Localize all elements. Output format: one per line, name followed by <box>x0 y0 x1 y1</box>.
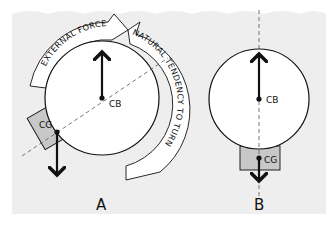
cg-point-b <box>256 155 261 160</box>
panel-a-label: A <box>96 196 107 214</box>
cg-label-a: CG <box>39 120 52 130</box>
cb-label-a: CB <box>109 99 121 109</box>
cb-point-b <box>256 96 261 101</box>
cg-label-b: CG <box>264 155 277 165</box>
cg-point-a <box>54 129 59 134</box>
stability-diagram: EXTERNAL FORCE NATURAL TENDENCY TO TURN … <box>0 0 334 226</box>
cb-point-a <box>99 95 104 100</box>
panel-b-label: B <box>254 196 264 214</box>
cb-label-b: CB <box>266 95 278 105</box>
